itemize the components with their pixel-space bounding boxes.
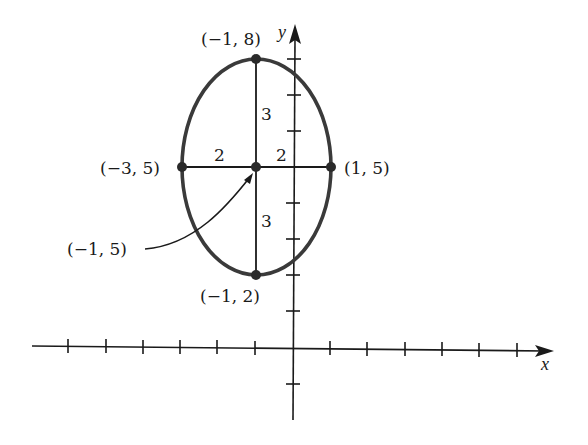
vertex-left-label: (−3, 5) — [100, 158, 160, 178]
y-axis: y — [276, 22, 301, 420]
center-pointer-arrow — [145, 177, 250, 249]
vertex-bottom-point — [251, 270, 261, 280]
ellipse-diagram: x y (−1, 8) (−1, 2) (−3, 5) (1, 5 — [0, 0, 588, 445]
y-axis-label: y — [276, 22, 286, 42]
vertex-bottom-label: (−1, 2) — [200, 286, 260, 306]
center-point — [251, 162, 261, 172]
vertex-top-point — [251, 54, 261, 64]
right-semi-minor-length: 2 — [276, 145, 287, 165]
vertex-right-point — [326, 162, 336, 172]
left-semi-minor-length: 2 — [214, 145, 225, 165]
vertex-right-label: (1, 5) — [344, 158, 390, 178]
vertex-left-point — [177, 162, 187, 172]
vertex-top-label: (−1, 8) — [201, 29, 261, 49]
lower-semi-major-length: 3 — [261, 211, 272, 231]
upper-semi-major-length: 3 — [261, 104, 272, 124]
x-axis-label: x — [540, 354, 549, 374]
center-label: (−1, 5) — [67, 239, 127, 259]
